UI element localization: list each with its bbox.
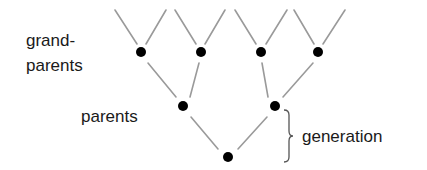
family-tree-diagram: grand- parents parents generation [0,0,427,170]
ancestor-line [175,10,196,44]
ancestor-line [146,10,166,44]
ancestor-line [235,10,256,44]
edge-p2-child [238,117,267,149]
parent-node [178,101,188,111]
edge-gp4-p2 [283,63,313,97]
ancestor-line [205,10,225,44]
ancestor-line [266,10,287,44]
ancestor-line [115,10,137,44]
label-grandparents-line1: grand- [26,32,75,49]
generation-brace-icon [284,110,293,162]
edge-gp3-p2 [262,63,268,97]
grandparent-node [136,47,146,57]
ancestor-line [294,10,314,44]
label-generation: generation [302,128,382,145]
ancestor-line [323,10,345,44]
tree-nodes [136,47,323,162]
grandparent-node [196,47,206,57]
edge-p1-child [191,117,218,149]
edge-gp1-p1 [148,63,176,97]
grandparent-node [256,47,266,57]
label-parents: parents [81,108,138,125]
edge-gp2-p1 [190,63,199,97]
child-node [223,152,233,162]
grandparent-node [313,47,323,57]
parent-node [270,101,280,111]
label-grandparents-line2: parents [26,57,83,74]
